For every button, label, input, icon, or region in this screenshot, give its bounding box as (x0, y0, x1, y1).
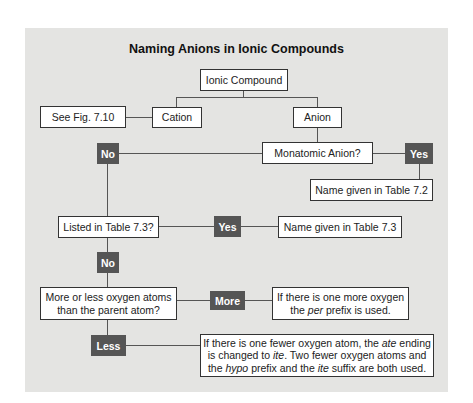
connector (419, 164, 420, 179)
connector (118, 153, 262, 154)
diagram-title: Naming Anions in Ionic Compounds (25, 42, 448, 56)
node-label: Name given in Table 7.3 (284, 221, 396, 234)
node-less-result: If there is one fewer oxygen atom, the a… (200, 334, 434, 377)
text: . Two fewer oxygen atoms and (284, 349, 426, 361)
node-label: Name given in Table 7.2 (315, 184, 427, 197)
connector (158, 226, 214, 227)
decision-label: No (101, 148, 115, 160)
text: ending (396, 337, 430, 349)
node-name-table-7-3: Name given in Table 7.3 (278, 216, 402, 238)
node-label-line: the per prefix is used. (290, 304, 390, 317)
decision-yes-2: Yes (214, 216, 241, 237)
node-cation: Cation (152, 107, 202, 128)
node-more-or-less-oxygen: More or less oxygen atoms than the paren… (40, 287, 177, 320)
connector (317, 97, 318, 107)
node-label-line: More or less oxygen atoms (45, 291, 171, 304)
connector (176, 300, 210, 301)
decision-less: Less (91, 335, 126, 356)
emphasis: ite (318, 362, 329, 374)
decision-label: Less (97, 340, 121, 352)
connector (317, 128, 318, 142)
emphasis: ite (273, 349, 284, 361)
connector (107, 164, 108, 216)
node-ionic-compound: Ionic Compound (200, 69, 288, 91)
emphasis: hypo (225, 362, 248, 374)
node-name-table-7-2: Name given in Table 7.2 (310, 179, 433, 201)
connector (107, 273, 108, 287)
decision-yes-1: Yes (405, 143, 433, 164)
decision-label: No (101, 257, 115, 269)
decision-no-1: No (97, 143, 119, 164)
emphasis: per (308, 304, 323, 316)
node-label-line: the hypo prefix and the ite suffix are b… (208, 362, 426, 375)
node-label-line: is changed to ite. Two fewer oxygen atom… (208, 349, 427, 362)
node-monatomic-anion: Monatomic Anion? (262, 142, 373, 164)
node-see-fig: See Fig. 7.10 (40, 106, 126, 128)
node-more-result: If there is one more oxygen the per pref… (272, 287, 409, 320)
node-label-line: If there is one more oxygen (277, 291, 404, 304)
node-label-line: If there is one fewer oxygen atom, the a… (203, 337, 431, 350)
node-label: Ionic Compound (206, 74, 282, 87)
node-label: See Fig. 7.10 (52, 111, 114, 124)
decision-label: Yes (410, 148, 428, 160)
decision-label: Yes (218, 221, 236, 233)
connector (107, 319, 108, 335)
node-label: Anion (304, 111, 331, 124)
decision-label: More (215, 295, 240, 307)
connector (107, 237, 108, 252)
text: If there is one fewer oxygen atom, the (203, 337, 382, 349)
text: the (290, 304, 308, 316)
text: the (208, 362, 226, 374)
text: prefix is used. (323, 304, 391, 316)
connector (126, 117, 152, 118)
text: is changed to (208, 349, 273, 361)
node-anion: Anion (293, 107, 342, 128)
connector (241, 226, 278, 227)
connector (126, 345, 200, 346)
node-label: Cation (162, 111, 192, 124)
connector (176, 97, 317, 98)
node-label-line: than the parent atom? (57, 304, 160, 317)
emphasis: ate (382, 337, 397, 349)
text: suffix are both used. (329, 362, 426, 374)
decision-no-2: No (97, 252, 119, 273)
connector (176, 97, 177, 107)
text: prefix and the (248, 362, 317, 374)
connector (245, 300, 272, 301)
node-label: Monatomic Anion? (274, 147, 360, 160)
node-label: Listed in Table 7.3? (63, 221, 153, 234)
decision-more: More (210, 291, 245, 310)
node-listed-table-7-3: Listed in Table 7.3? (58, 216, 159, 238)
connector (372, 153, 405, 154)
